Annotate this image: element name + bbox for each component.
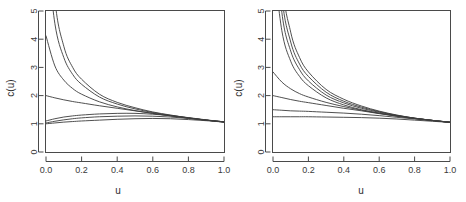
x-axis-label: u bbox=[358, 185, 364, 196]
plot-frame bbox=[273, 11, 451, 153]
plot-area-right bbox=[273, 0, 451, 153]
x-tick-label: 0.0 bbox=[267, 165, 280, 175]
x-tick-label: 1.0 bbox=[218, 165, 231, 175]
x-tick-label: 0.4 bbox=[111, 165, 124, 175]
x-tick-label: 0.0 bbox=[40, 165, 53, 175]
y-tick-label: 0 bbox=[29, 149, 39, 154]
data-curve bbox=[273, 0, 450, 122]
x-tick-label: 0.2 bbox=[75, 165, 88, 175]
data-curve bbox=[273, 0, 450, 122]
y-tick-label: 1 bbox=[256, 121, 266, 126]
x-tick-label: 0.6 bbox=[147, 165, 160, 175]
x-axis-label: u bbox=[115, 185, 121, 196]
x-tick-label: 1.0 bbox=[444, 165, 457, 175]
x-tick-label: 0.6 bbox=[373, 165, 386, 175]
chart-panel-left: 012345 0.00.20.40.60.81.0 u c(u) bbox=[0, 0, 233, 202]
y-tick-label: 3 bbox=[256, 65, 266, 70]
y-axis-label: c(u) bbox=[5, 79, 16, 96]
y-tick-label: 2 bbox=[29, 93, 39, 98]
x-tick-label: 0.4 bbox=[338, 165, 351, 175]
y-axis-right: 012345 bbox=[256, 8, 271, 154]
y-tick-label: 5 bbox=[29, 8, 39, 13]
x-axis-right: 0.00.20.40.60.81.0 bbox=[267, 157, 457, 176]
y-tick-label: 5 bbox=[256, 8, 266, 13]
y-tick-label: 0 bbox=[256, 149, 266, 154]
y-axis-left: 012345 bbox=[29, 8, 44, 154]
data-curve bbox=[273, 0, 450, 122]
figure-container: 012345 0.00.20.40.60.81.0 u c(u) 012345 … bbox=[0, 0, 466, 202]
curve-group-right bbox=[273, 0, 450, 122]
plot-svg-left: 012345 0.00.20.40.60.81.0 u c(u) bbox=[0, 0, 233, 202]
chart-panel-right: 012345 0.00.20.40.60.81.0 u c(u) bbox=[233, 0, 466, 202]
data-curve bbox=[273, 96, 450, 123]
x-tick-label: 0.2 bbox=[302, 165, 315, 175]
y-tick-label: 4 bbox=[29, 37, 39, 42]
y-tick-label: 4 bbox=[256, 37, 266, 42]
plot-area-left bbox=[46, 0, 225, 153]
y-tick-label: 2 bbox=[256, 93, 266, 98]
plot-svg-right: 012345 0.00.20.40.60.81.0 u c(u) bbox=[233, 0, 466, 202]
data-curve bbox=[273, 0, 450, 122]
data-curve bbox=[46, 0, 224, 122]
plot-frame bbox=[46, 11, 225, 153]
x-axis-left: 0.00.20.40.60.81.0 bbox=[40, 157, 231, 176]
y-tick-label: 1 bbox=[29, 121, 39, 126]
curve-group-left bbox=[46, 0, 224, 124]
x-tick-label: 0.8 bbox=[408, 165, 421, 175]
x-tick-label: 0.8 bbox=[182, 165, 195, 175]
data-curve bbox=[46, 0, 224, 122]
y-tick-label: 3 bbox=[29, 65, 39, 70]
y-axis-label: c(u) bbox=[233, 79, 244, 96]
